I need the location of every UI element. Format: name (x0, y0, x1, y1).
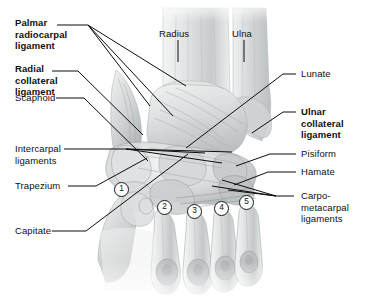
label-line: radiocarpal (15, 29, 67, 41)
callout-3: 3 (187, 204, 202, 219)
label-line: Radius (159, 28, 189, 40)
label-line: metacarpal (301, 202, 349, 214)
label-line: Ulnar (301, 106, 344, 118)
label-trapezium: Trapezium (15, 180, 60, 192)
label-scaphoid: Scaphoid (15, 92, 55, 104)
label-capitate: Capitate (15, 225, 51, 237)
label-ulnar-collateral-ligament: Ulnar collateral ligament (301, 106, 344, 141)
label-line: collateral (15, 75, 58, 87)
label-line: Pisiform (301, 148, 336, 160)
label-line: Palmar (15, 17, 67, 29)
label-lunate: Lunate (301, 68, 331, 80)
label-line: Carpo- (301, 190, 349, 202)
label-line: ligament (301, 129, 344, 141)
label-line: Lunate (301, 68, 331, 80)
label-line: Ulna (232, 28, 252, 40)
callout-2: 2 (157, 200, 172, 215)
label-line: ligament (15, 40, 67, 52)
label-line: Intercarpal (15, 143, 61, 155)
anatomical-figure: Palmar radiocarpal ligament Radial colla… (0, 0, 366, 306)
label-line: collateral (301, 118, 344, 130)
label-radius: Radius (159, 28, 189, 40)
label-line: Radial (15, 63, 58, 75)
label-ulna: Ulna (232, 28, 252, 40)
label-intercarpal-ligaments: Intercarpal ligaments (15, 143, 61, 166)
label-line: ligaments (15, 155, 61, 167)
label-line: Trapezium (15, 180, 60, 192)
callout-5: 5 (239, 195, 254, 210)
label-palmar-radiocarpal-ligament: Palmar radiocarpal ligament (15, 17, 67, 52)
label-line: ligaments (301, 213, 349, 225)
callout-4: 4 (214, 201, 229, 216)
label-line: Capitate (15, 225, 51, 237)
label-line: Hamate (301, 166, 335, 178)
label-hamate: Hamate (301, 166, 335, 178)
label-carpometacarpal-ligaments: Carpo- metacarpal ligaments (301, 190, 349, 225)
callout-1: 1 (114, 182, 129, 197)
label-pisiform: Pisiform (301, 148, 336, 160)
label-line: Scaphoid (15, 92, 55, 104)
